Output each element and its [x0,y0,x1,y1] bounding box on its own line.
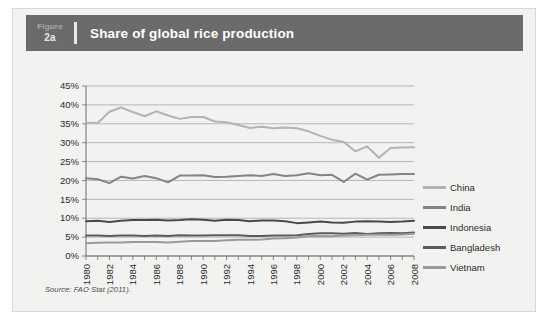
svg-text:40%: 40% [60,99,80,110]
legend-item-vietnam: Vietnam [423,257,527,277]
figure-tag-label: Figure [37,22,63,32]
svg-text:1986: 1986 [151,264,162,285]
legend-item-label: Indonesia [450,222,491,233]
series-line-indonesia [86,219,414,223]
svg-text:2004: 2004 [362,264,373,285]
chart-legend: ChinaIndiaIndonesiaBangladeshVietnam [423,177,527,277]
svg-text:1996: 1996 [268,264,279,285]
svg-text:1992: 1992 [221,264,232,285]
svg-text:1980: 1980 [81,264,92,285]
svg-text:1988: 1988 [174,264,185,285]
series-line-india [86,173,414,183]
axis-lines [86,86,414,256]
header-divider [74,22,77,44]
legend-swatch-icon [423,206,446,209]
x-axis-tick-labels: 1980198219841986198819901992199419961998… [81,264,420,285]
chart-area: 0%5%10%15%20%25%30%35%40%45% 19801982198… [26,57,523,305]
y-axis-tick-labels: 0%5%10%15%20%25%30%35%40%45% [60,80,80,261]
svg-text:15%: 15% [60,194,80,205]
svg-text:25%: 25% [60,156,80,167]
svg-text:35%: 35% [60,118,80,129]
svg-text:30%: 30% [60,137,80,148]
legend-swatch-icon [423,266,446,269]
svg-text:2002: 2002 [338,264,349,285]
legend-item-china: China [423,177,527,197]
svg-text:1998: 1998 [291,264,302,285]
x-axis-ticks [86,256,414,260]
svg-text:5%: 5% [65,231,79,242]
legend-item-indonesia: Indonesia [423,217,527,237]
figure-panel: Figure 2a Share of global rice productio… [12,8,536,312]
svg-text:1994: 1994 [245,264,256,285]
legend-swatch-icon [423,246,446,249]
svg-text:45%: 45% [60,80,80,91]
svg-text:1990: 1990 [198,264,209,285]
legend-item-label: India [450,202,471,213]
chart-series-lines [86,108,414,244]
legend-item-india: India [423,197,527,217]
source-note: Source: FAO Stat (2011). [45,285,131,294]
svg-text:1984: 1984 [127,264,138,285]
svg-text:0%: 0% [65,250,79,261]
figure-title: Share of global rice production [90,26,294,41]
svg-text:20%: 20% [60,175,80,186]
legend-item-label: Vietnam [450,262,485,273]
figure-header-bar: Figure 2a Share of global rice productio… [26,15,523,51]
legend-item-bangladesh: Bangladesh [423,237,527,257]
svg-text:10%: 10% [60,212,80,223]
svg-text:2000: 2000 [315,264,326,285]
legend-item-label: Bangladesh [450,242,500,253]
series-line-china [86,108,414,158]
legend-swatch-icon [423,226,446,229]
figure-tag-number: 2a [44,32,56,45]
figure-number-tag: Figure 2a [26,15,74,51]
legend-swatch-icon [423,186,446,189]
svg-text:2006: 2006 [385,264,396,285]
svg-text:2008: 2008 [409,264,420,285]
svg-text:1982: 1982 [104,264,115,285]
legend-item-label: China [450,182,475,193]
